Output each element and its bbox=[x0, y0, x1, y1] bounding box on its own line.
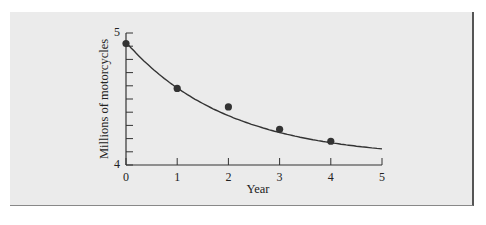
data-points bbox=[122, 40, 334, 145]
data-point bbox=[276, 126, 283, 133]
x-tick-label: 3 bbox=[277, 170, 283, 184]
axis-labels: 01234545YearMillions of motorcycles bbox=[97, 25, 385, 196]
fitted-curve bbox=[126, 42, 382, 149]
data-point bbox=[174, 85, 181, 92]
y-axis-title: Millions of motorcycles bbox=[97, 39, 111, 159]
x-tick-label: 4 bbox=[328, 170, 334, 184]
y-tick-label: 5 bbox=[114, 25, 120, 39]
data-point bbox=[327, 138, 334, 145]
x-axis-title: Year bbox=[246, 182, 270, 196]
chart: 01234545YearMillions of motorcycles bbox=[0, 0, 486, 225]
fitted-curve-path bbox=[126, 42, 382, 149]
x-tick-label: 5 bbox=[379, 170, 385, 184]
data-point bbox=[122, 40, 129, 47]
x-tick-label: 1 bbox=[174, 170, 180, 184]
x-tick-label: 2 bbox=[225, 170, 231, 184]
x-tick-label: 0 bbox=[123, 170, 129, 184]
data-point bbox=[225, 103, 232, 110]
y-tick-label: 4 bbox=[114, 157, 120, 171]
